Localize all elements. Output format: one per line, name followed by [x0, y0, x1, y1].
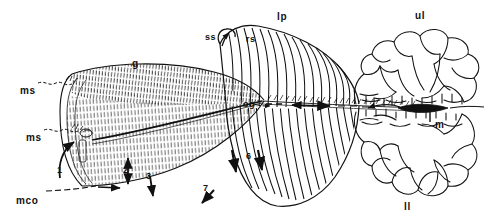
upper-lobe	[354, 29, 478, 106]
flow-number-6: 6	[246, 152, 251, 161]
flow-number-1: 1	[57, 166, 62, 175]
label-rs: rs	[246, 35, 256, 44]
flow-number-7: 7	[203, 184, 208, 193]
label-ms-upper: ms	[20, 86, 36, 96]
lower-lobe	[354, 109, 477, 196]
flow-number-2: 2	[123, 166, 128, 175]
flow-number-3: 3	[146, 172, 151, 181]
label-m: m	[435, 120, 445, 130]
label-ul: ul	[415, 11, 425, 21]
label-ll: ll	[404, 202, 411, 212]
label-ms-lower: ms	[26, 133, 42, 143]
label-ss: ss	[205, 33, 216, 42]
label-mco: mco	[16, 196, 38, 206]
label-og: og	[243, 100, 255, 109]
label-lp: lp	[277, 12, 287, 22]
anatomical-figure: ms ms mco g ss rs lp og ul m ll 1 2 3 6 …	[0, 0, 495, 222]
mco-leader	[46, 186, 96, 191]
label-g: g	[132, 59, 139, 69]
gill-structure	[60, 58, 280, 194]
